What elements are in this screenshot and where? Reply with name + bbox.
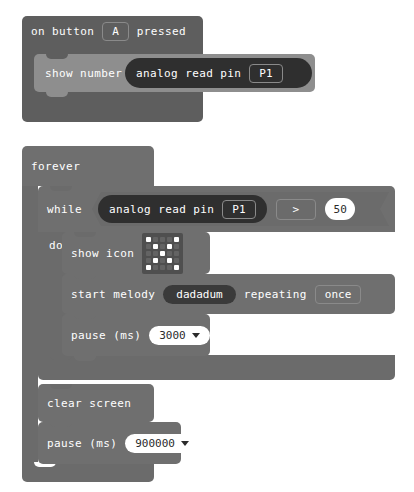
led-matrix-icon[interactable] xyxy=(142,233,183,274)
pressed-label: pressed xyxy=(137,26,186,37)
pause-inner-label: pause (ms) xyxy=(71,330,141,341)
led-cell-1-4[interactable] xyxy=(174,244,179,249)
led-cell-4-1[interactable] xyxy=(153,265,158,270)
analog-read-pin-label: analog read pin xyxy=(136,68,241,79)
led-cell-2-2[interactable] xyxy=(160,251,165,256)
pause-outer-label: pause (ms) xyxy=(47,438,117,449)
forever-label: forever xyxy=(31,161,80,172)
condition-comparison[interactable]: analog read pin P1 > 50 xyxy=(92,192,389,226)
forever-left-spine xyxy=(22,186,38,470)
show-icon-label: show icon xyxy=(71,248,134,259)
analog-read-pin-label-2: analog read pin xyxy=(109,204,214,215)
led-cell-0-2[interactable] xyxy=(160,237,165,242)
do-label: do xyxy=(49,240,63,251)
reporter-analog-read-pin-2[interactable]: analog read pin P1 xyxy=(98,195,267,223)
clear-screen-label: clear screen xyxy=(47,398,131,409)
led-cell-2-4[interactable] xyxy=(174,251,179,256)
led-cell-4-2[interactable] xyxy=(160,265,165,270)
led-cell-2-1[interactable] xyxy=(153,251,158,256)
pin-select[interactable]: P1 xyxy=(249,64,282,83)
pause-outer-value[interactable]: 900000 xyxy=(125,434,199,453)
led-cell-3-2[interactable] xyxy=(160,258,165,263)
led-cell-3-3[interactable] xyxy=(167,258,172,263)
led-cell-0-3[interactable] xyxy=(167,237,172,242)
show-number-bottom-notch xyxy=(46,92,68,97)
led-cell-2-0[interactable] xyxy=(146,251,151,256)
operator-select[interactable]: > xyxy=(276,199,317,220)
start-melody-label: start melody xyxy=(71,289,155,300)
led-cell-0-1[interactable] xyxy=(153,237,158,242)
led-cell-2-3[interactable] xyxy=(167,251,172,256)
led-cell-3-0[interactable] xyxy=(146,258,151,263)
led-cell-4-3[interactable] xyxy=(167,265,172,270)
melody-select[interactable]: dadadum xyxy=(163,285,235,304)
led-cell-1-0[interactable] xyxy=(146,244,151,249)
repeat-mode-select[interactable]: once xyxy=(315,285,362,304)
condition-value-input[interactable]: 50 xyxy=(325,198,355,220)
block-start-melody[interactable]: start melody dadadum repeating once xyxy=(62,274,395,314)
show-number-label: show number xyxy=(45,68,122,79)
hat-on-button-pressed[interactable]: on button A pressed xyxy=(22,16,203,46)
while-label: while xyxy=(47,204,82,215)
led-cell-3-4[interactable] xyxy=(174,258,179,263)
chevron-down-icon-2 xyxy=(181,441,189,446)
pause-inner-bottom-notch xyxy=(74,356,96,361)
pause-inner-value[interactable]: 3000 xyxy=(149,326,210,345)
reporter-analog-read-pin-1[interactable]: analog read pin P1 xyxy=(125,58,312,88)
led-cell-1-3[interactable] xyxy=(167,244,172,249)
block-clear-screen[interactable]: clear screen xyxy=(38,384,154,422)
repeating-label: repeating xyxy=(244,289,307,300)
pause-inner-number: 3000 xyxy=(159,330,186,341)
block-pause-outer[interactable]: pause (ms) 900000 xyxy=(38,422,181,464)
forever-label-row: forever xyxy=(22,146,154,186)
pin-select-2[interactable]: P1 xyxy=(222,200,255,219)
led-cell-1-2[interactable] xyxy=(160,244,165,249)
pause-outer-number: 900000 xyxy=(135,438,175,449)
on-button-label: on button xyxy=(31,26,94,37)
led-cell-4-4[interactable] xyxy=(174,265,179,270)
block-editor-canvas: on button A pressed show number analog r… xyxy=(0,0,414,492)
block-show-icon[interactable]: show icon xyxy=(62,232,210,274)
chevron-down-icon xyxy=(192,333,200,338)
block-pause-inner[interactable]: pause (ms) 3000 xyxy=(62,314,210,356)
button-select[interactable]: A xyxy=(102,22,129,41)
led-cell-4-0[interactable] xyxy=(146,265,151,270)
led-cell-3-1[interactable] xyxy=(153,258,158,263)
led-cell-0-0[interactable] xyxy=(146,237,151,242)
led-cell-1-1[interactable] xyxy=(153,244,158,249)
led-cell-0-4[interactable] xyxy=(174,237,179,242)
